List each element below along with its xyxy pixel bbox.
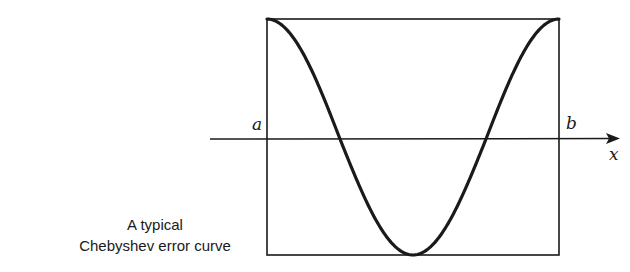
error-curve-line (267, 19, 559, 255)
error-bound-box (267, 19, 559, 255)
caption-line-2: Chebyshev error curve (50, 235, 260, 256)
label-b: b (566, 113, 577, 133)
caption-line-1: A typical (50, 214, 260, 235)
label-a: a (252, 114, 262, 134)
x-axis-line (210, 139, 614, 140)
label-x: x (609, 144, 619, 164)
figure-caption: A typical Chebyshev error curve (50, 214, 260, 256)
